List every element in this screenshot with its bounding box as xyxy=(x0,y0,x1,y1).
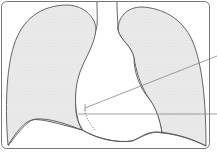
trachea-right-wall xyxy=(117,2,118,30)
trachea xyxy=(96,2,97,30)
lung-diagram xyxy=(0,0,217,152)
chest-xray-schematic xyxy=(0,0,217,152)
